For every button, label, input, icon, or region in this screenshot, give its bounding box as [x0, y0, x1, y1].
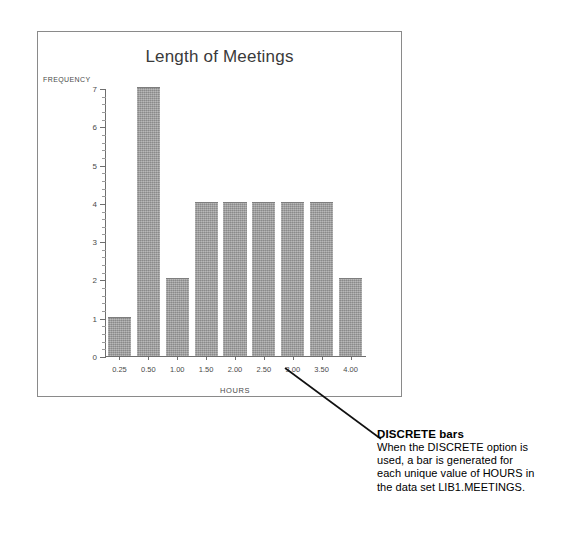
x-axis-tick [235, 356, 236, 360]
x-axis-tick [293, 356, 294, 360]
y-axis-title: FREQUENCY [43, 76, 91, 83]
x-axis-tick [264, 356, 265, 360]
x-axis-tick [351, 356, 352, 360]
y-axis-tick [100, 242, 106, 243]
y-axis-minor-tick [102, 120, 106, 121]
y-axis-tick-label: 6 [93, 123, 97, 132]
x-axis-tick [119, 356, 120, 360]
y-axis-minor-tick [102, 189, 106, 190]
chart-figure-frame: Length of Meetings FREQUENCY 01234567 0.… [37, 31, 402, 397]
y-axis-tick [100, 319, 106, 320]
y-axis-minor-tick [102, 135, 106, 136]
y-axis-minor-tick [102, 196, 106, 197]
x-axis-title: HOURS [220, 386, 250, 395]
y-axis-tick [100, 280, 106, 281]
y-axis-tick-label: 1 [93, 314, 97, 323]
y-axis-minor-tick [102, 227, 106, 228]
y-axis-tick [100, 166, 106, 167]
bar [195, 202, 218, 356]
y-axis-tick-label: 0 [93, 353, 97, 362]
x-axis-tick-label: 2.50 [257, 365, 272, 374]
callout-body-line: each unique value of HOURS in [377, 467, 567, 480]
callout-body-line: When the DISCRETE option is [377, 441, 567, 454]
y-axis-line [105, 89, 106, 357]
y-axis-minor-tick [102, 326, 106, 327]
bar [281, 202, 304, 356]
y-axis-tick [100, 89, 106, 90]
y-axis-minor-tick [102, 311, 106, 312]
y-axis-tick-label: 2 [93, 276, 97, 285]
y-axis-minor-tick [102, 219, 106, 220]
bar [310, 202, 333, 356]
chart-plot-area: FREQUENCY 01234567 0.250.501.001.502.002… [105, 89, 365, 357]
y-axis-minor-tick [102, 150, 106, 151]
x-axis-tick-label: 3.00 [285, 365, 300, 374]
y-axis-minor-tick [102, 104, 106, 105]
x-axis-tick [177, 356, 178, 360]
bar [166, 278, 189, 356]
x-axis-tick-label: 4.00 [343, 365, 358, 374]
y-axis-minor-tick [102, 349, 106, 350]
y-axis-minor-tick [102, 273, 106, 274]
bar [108, 317, 131, 356]
x-axis-tick-label: 1.00 [170, 365, 185, 374]
x-axis-tick-label: 0.25 [112, 365, 127, 374]
y-axis-tick-label: 4 [93, 199, 97, 208]
y-axis-minor-tick [102, 112, 106, 113]
y-axis-minor-tick [102, 250, 106, 251]
y-axis-minor-tick [102, 173, 106, 174]
y-axis-minor-tick [102, 158, 106, 159]
y-axis-minor-tick [102, 181, 106, 182]
x-axis-tick-label: 1.50 [199, 365, 214, 374]
x-axis-tick [148, 356, 149, 360]
y-axis-minor-tick [102, 97, 106, 98]
y-axis-tick [100, 357, 106, 358]
y-axis-minor-tick [102, 143, 106, 144]
callout-body-line: the data set LIB1.MEETINGS. [377, 481, 567, 494]
y-axis-minor-tick [102, 334, 106, 335]
x-axis-tick-label: 3.50 [314, 365, 329, 374]
y-axis-minor-tick [102, 257, 106, 258]
bar [137, 87, 160, 356]
y-axis-tick-label: 3 [93, 238, 97, 247]
bar [223, 202, 246, 356]
y-axis-tick-label: 7 [93, 85, 97, 94]
y-axis-minor-tick [102, 288, 106, 289]
y-axis-tick [100, 127, 106, 128]
y-axis-minor-tick [102, 342, 106, 343]
y-axis-minor-tick [102, 212, 106, 213]
y-axis-tick-label: 5 [93, 161, 97, 170]
y-axis-minor-tick [102, 303, 106, 304]
x-axis-tick [206, 356, 207, 360]
x-axis-tick-label: 0.50 [141, 365, 156, 374]
bar [339, 278, 362, 356]
chart-title: Length of Meetings [38, 47, 401, 67]
x-axis-tick-label: 2.00 [228, 365, 243, 374]
x-axis-tick [322, 356, 323, 360]
bar [252, 202, 275, 356]
y-axis-tick [100, 204, 106, 205]
callout-body-line: used, a bar is generated for [377, 454, 567, 467]
callout-heading: DISCRETE bars [377, 428, 567, 440]
y-axis-minor-tick [102, 234, 106, 235]
y-axis-minor-tick [102, 296, 106, 297]
y-axis-minor-tick [102, 265, 106, 266]
callout-body: When the DISCRETE option isused, a bar i… [377, 441, 567, 494]
callout-annotation: DISCRETE bars When the DISCRETE option i… [377, 428, 567, 494]
